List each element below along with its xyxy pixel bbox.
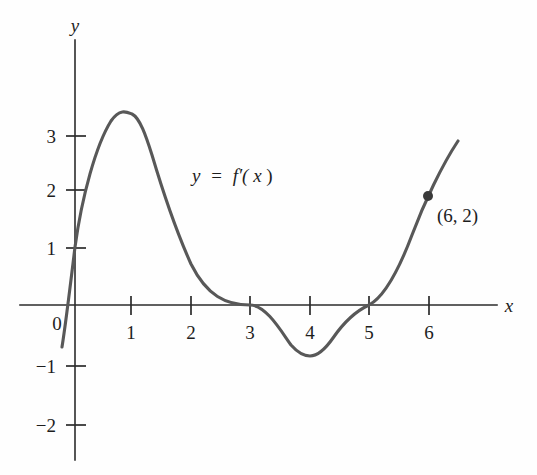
marked-point-6-2: [423, 191, 433, 201]
derivative-graph-svg: 1 2 3 4 5 6 3 2 1 −1 −2 0 y x y = f′(: [0, 0, 537, 475]
y-tick-label-1: 1: [47, 238, 57, 259]
y-tick-label-3: 3: [47, 126, 57, 147]
y-tick-label-neg2: −2: [36, 415, 56, 436]
curve-label-y: y: [190, 165, 201, 186]
graph-figure: 1 2 3 4 5 6 3 2 1 −1 −2 0 y x y = f′(: [0, 0, 537, 475]
x-tick-label-6: 6: [424, 322, 434, 343]
curve-label-equals: =: [211, 165, 222, 186]
x-axis-label: x: [504, 295, 514, 316]
curve-label-close: ): [266, 165, 272, 187]
derivative-curve: [62, 112, 458, 356]
x-tick-label-4: 4: [305, 322, 315, 343]
curve-equation-label: y = f′( x ): [190, 165, 273, 187]
x-tick-label-1: 1: [126, 322, 136, 343]
y-tick-label-2: 2: [47, 180, 57, 201]
curve-label-x: x: [252, 165, 262, 186]
x-tick-label-5: 5: [364, 322, 374, 343]
y-axis-label: y: [69, 15, 80, 36]
y-tick-label-neg1: −1: [36, 356, 56, 377]
x-tick-labels: 1 2 3 4 5 6: [126, 322, 434, 343]
x-tick-label-3: 3: [245, 322, 255, 343]
origin-label: 0: [52, 313, 62, 334]
point-coordinate-label: (6, 2): [437, 205, 478, 227]
y-tick-marks: [66, 136, 86, 425]
curve-label-fprime: f′(: [233, 165, 250, 187]
axes-group: [20, 40, 497, 460]
y-tick-labels: 3 2 1 −1 −2: [36, 126, 56, 436]
x-tick-label-2: 2: [186, 322, 196, 343]
